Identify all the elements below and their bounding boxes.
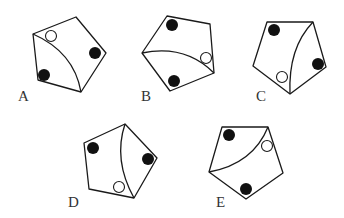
black-dot-icon (223, 129, 235, 141)
black-dot-icon (142, 153, 154, 165)
open-dot-icon (114, 182, 125, 193)
black-dot-icon (240, 183, 252, 195)
option-label-d: D (68, 194, 79, 210)
option-label-e: E (216, 194, 225, 210)
option-label-b: B (141, 88, 151, 104)
open-dot-icon (262, 141, 273, 152)
black-dot-icon (166, 19, 178, 31)
option-b: B (141, 16, 214, 104)
black-dot-icon (168, 75, 180, 87)
black-dot-icon (268, 24, 280, 36)
curved-divider-a (33, 34, 81, 92)
black-dot-icon (38, 69, 50, 81)
open-dot-icon (277, 72, 288, 83)
open-dot-icon (46, 31, 57, 42)
option-e: E (209, 127, 283, 210)
black-dot-icon (89, 47, 101, 59)
black-dot-icon (87, 142, 99, 154)
curved-divider-c (290, 22, 313, 94)
option-d: D (68, 124, 157, 210)
option-a: A (18, 17, 106, 104)
open-dot-icon (201, 53, 212, 64)
option-label-c: C (256, 88, 266, 104)
option-label-a: A (18, 88, 29, 104)
curved-divider-e (209, 127, 268, 172)
pentagon-options-diagram: A B C D E (0, 0, 344, 218)
black-dot-icon (312, 58, 324, 70)
option-c: C (253, 22, 326, 104)
